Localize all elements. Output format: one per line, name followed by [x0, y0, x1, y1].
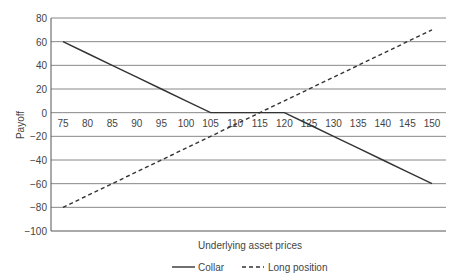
x-tick-label: 135: [350, 118, 367, 129]
x-tick-label: 145: [399, 118, 416, 129]
x-tick-label: 115: [252, 118, 268, 129]
legend-collar-label: Collar: [198, 262, 225, 273]
x-tick-label: 150: [424, 118, 441, 129]
y-tick-label: 0: [41, 108, 47, 119]
y-tick-label: −100: [24, 226, 47, 237]
y-tick-label: 60: [36, 37, 48, 48]
x-axis-ticks: 7580859095100105110115120125130135140145…: [57, 118, 440, 129]
y-axis-label: Payoff: [15, 111, 26, 139]
x-tick-label: 140: [374, 118, 391, 129]
y-tick-label: 40: [36, 60, 48, 71]
legend-long-label: Long position: [268, 262, 328, 273]
x-tick-label: 105: [202, 118, 219, 129]
x-tick-label: 120: [276, 118, 293, 129]
y-tick-label: 20: [36, 84, 48, 95]
x-axis-label: Underlying asset prices: [198, 240, 302, 251]
y-tick-label: −60: [30, 179, 47, 190]
x-tick-label: 130: [325, 118, 342, 129]
x-tick-label: 100: [178, 118, 195, 129]
y-tick-label: −20: [30, 131, 47, 142]
y-tick-label: −80: [30, 202, 47, 213]
x-tick-label: 90: [131, 118, 143, 129]
x-tick-label: 95: [156, 118, 168, 129]
legend: Collar Long position: [172, 262, 328, 273]
x-tick-label: 75: [57, 118, 69, 129]
y-tick-label: −40: [30, 155, 47, 166]
payoff-chart: 806040200−20−40−60−80−100 75808590951001…: [0, 0, 456, 280]
x-tick-label: 85: [107, 118, 119, 129]
y-axis-ticks: 806040200−20−40−60−80−100: [24, 13, 47, 237]
y-tick-label: 80: [36, 13, 48, 24]
x-tick-label: 80: [82, 118, 94, 129]
